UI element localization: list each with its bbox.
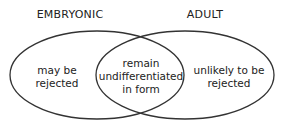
adult-title: ADULT	[175, 8, 235, 21]
text-line: may be	[22, 64, 92, 77]
adult-only-text: unlikely to be rejected	[186, 64, 272, 90]
embryonic-only-text: may be rejected	[22, 64, 92, 90]
text-line: remain	[96, 57, 186, 70]
text-line: in form	[96, 83, 186, 96]
embryonic-title: EMBRYONIC	[30, 8, 110, 21]
text-line: rejected	[22, 77, 92, 90]
intersection-text: remain undifferentiated in form	[96, 57, 186, 96]
text-line: undifferentiated	[96, 70, 186, 83]
text-line: rejected	[186, 77, 272, 90]
text-line: unlikely to be	[186, 64, 272, 77]
